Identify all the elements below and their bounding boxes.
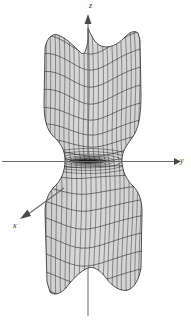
surface-body (38, 20, 146, 320)
x-axis-arrowhead (20, 210, 31, 220)
surface-plot-figure: z y x (0, 0, 191, 324)
x-axis-label: x (13, 222, 17, 230)
z-axis-label: z (89, 2, 92, 10)
y-axis-label: y (180, 157, 184, 165)
surface-plot-canvas (0, 0, 191, 324)
z-axis-arrowhead (85, 14, 92, 24)
